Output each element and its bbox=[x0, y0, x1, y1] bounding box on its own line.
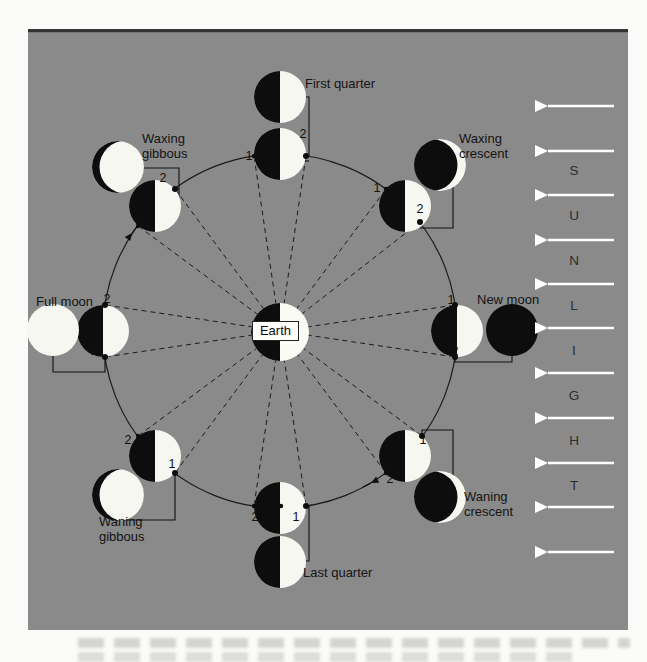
label-last-quarter: Last quarter bbox=[303, 565, 372, 580]
ghost-text-line bbox=[78, 638, 630, 648]
orbit-moon-full bbox=[77, 305, 129, 357]
earth-label: Earth bbox=[252, 321, 299, 341]
point-number: 1 bbox=[138, 215, 145, 229]
point-number: 2 bbox=[387, 472, 394, 486]
label-waxing-gibbous: Waxing gibbous bbox=[142, 131, 212, 161]
sunlight-letter-l: L bbox=[570, 298, 578, 313]
point-number: 2 bbox=[417, 202, 424, 216]
point-number: 1 bbox=[293, 510, 300, 524]
label-full-moon: Full moon bbox=[36, 294, 93, 309]
view-moon-last-quarter bbox=[254, 536, 306, 588]
point-number: 1 bbox=[420, 433, 427, 447]
orbit-moon-last-quarter bbox=[254, 482, 306, 534]
label-first-quarter: First quarter bbox=[305, 76, 375, 91]
panel-top-edge bbox=[28, 29, 628, 32]
point-number: 2 bbox=[160, 171, 167, 185]
point-number: 1 bbox=[246, 149, 253, 163]
point-number: 2 bbox=[452, 344, 459, 358]
sunlight-letter-n: N bbox=[569, 253, 579, 268]
view-moon-first-quarter bbox=[254, 71, 306, 123]
sunlight-letter-u: U bbox=[569, 208, 579, 223]
sunlight-letter-t: T bbox=[570, 478, 578, 493]
point-number: 2 bbox=[104, 292, 111, 306]
point-number: 2 bbox=[125, 433, 132, 447]
moon-phases-diagram bbox=[0, 0, 647, 662]
scanned-textbook-page: First quarter Waxing crescent New moon W… bbox=[0, 0, 647, 662]
point-number: 1 bbox=[91, 344, 98, 358]
sunlight-letter-g: G bbox=[569, 388, 580, 403]
label-waning-gibbous: Waning gibbous bbox=[99, 514, 169, 544]
sunlight-letter-i: I bbox=[572, 343, 576, 358]
sunlight-letter-s: S bbox=[569, 163, 578, 178]
label-waning-crescent: Waning crescent bbox=[464, 489, 534, 519]
point-number: 1 bbox=[374, 181, 381, 195]
orbit-moon-first-quarter bbox=[254, 128, 306, 180]
view-moon-full bbox=[27, 304, 79, 356]
point-number: 2 bbox=[300, 127, 307, 141]
label-new-moon: New moon bbox=[477, 292, 539, 307]
sunlight-letter-h: H bbox=[569, 433, 579, 448]
point-number: 1 bbox=[169, 457, 176, 471]
view-moon-new bbox=[486, 304, 538, 356]
point-number: 2 bbox=[252, 510, 259, 524]
label-waxing-crescent: Waxing crescent bbox=[459, 131, 529, 161]
ghost-text-line bbox=[78, 652, 578, 662]
point-number: 1 bbox=[448, 293, 455, 307]
